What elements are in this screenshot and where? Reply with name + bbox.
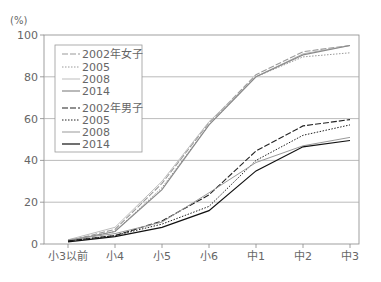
x-tick-label: 中1 [247,250,265,263]
y-unit-label: (%) [10,15,27,26]
y-tick-label: 60 [24,113,38,126]
legend-label: 2014 [82,138,110,151]
legend-label: 2014 [82,85,110,98]
x-tick-label: 中3 [341,250,359,263]
y-tick-label: 20 [24,196,38,209]
legend-label: 2002年男子 [82,101,143,115]
legend: 2002年女子2005200820142002年男子200520082014 [55,45,143,152]
x-tick-label: 小4 [106,250,124,263]
x-tick-label: 小5 [153,250,171,263]
y-tick-label: 0 [31,238,38,251]
y-tick-label: 100 [17,29,38,42]
x-tick-label: 小3以前 [48,249,88,263]
series-line-male-2008 [68,137,350,239]
series-line-male-2014 [68,141,350,242]
y-axis: (%) 020406080100 [10,15,44,251]
legend-label: 2002年女子 [82,47,143,61]
x-tick-label: 小6 [200,250,218,263]
x-axis: 小3以前小4小5小6中1中2中3 [48,244,359,263]
y-tick-label: 80 [24,71,38,84]
x-tick-label: 中2 [294,250,312,263]
line-chart: (%) 020406080100 小3以前小4小5小6中1中2中3 2002年女… [0,0,381,282]
y-tick-label: 40 [24,154,38,167]
